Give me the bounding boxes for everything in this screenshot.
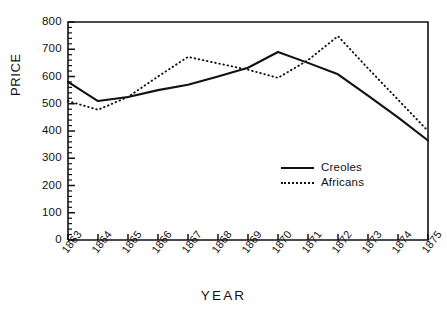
price-by-year-line-chart: PRICE 0100200300400500600700800 18631864… [0,0,447,312]
x-axis-title: YEAR [0,288,447,303]
legend-item: Creoles [281,160,364,175]
legend-swatch-solid [281,163,314,173]
axis-ticks [68,22,428,240]
plot-border [68,22,428,240]
legend-label: Africans [321,175,364,190]
legend-item: Africans [281,175,364,190]
plot-frame [68,22,428,240]
series-line-creoles [68,52,428,141]
plot-canvas [0,0,447,312]
chart-legend: CreolesAfricans [281,160,364,190]
legend-swatch-dotted [281,178,314,188]
data-series-group [68,36,428,140]
series-line-africans [68,36,428,131]
legend-label: Creoles [321,160,362,175]
